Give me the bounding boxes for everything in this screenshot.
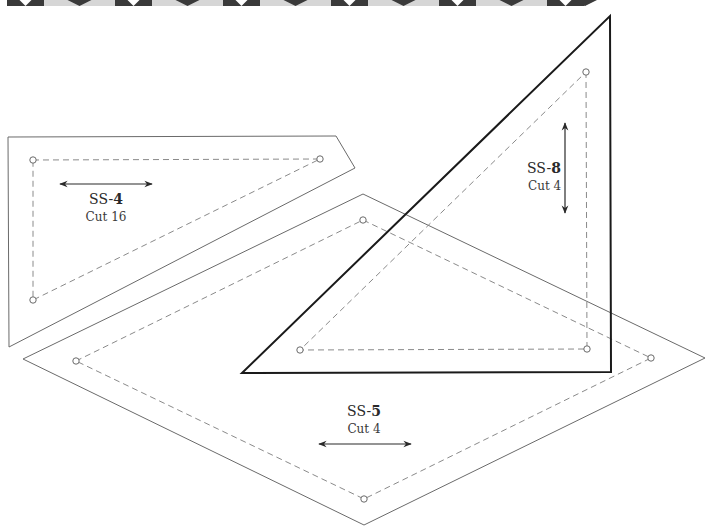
cut-count: Cut 4 bbox=[528, 179, 562, 193]
ss-8-seam-line bbox=[300, 72, 587, 350]
ss-5-seam-line bbox=[76, 220, 651, 499]
seam-point-icon bbox=[584, 346, 590, 352]
seam-point-icon bbox=[360, 217, 366, 223]
seam-point-icon bbox=[361, 496, 367, 502]
quilt-template-diagram: SS-4 Cut 16 SS-5 Cut 4 SS-8 Cut 4 bbox=[0, 0, 712, 526]
ss-4-seam-line bbox=[33, 159, 320, 300]
seam-point-icon bbox=[648, 355, 654, 361]
template-piece-ss-8: SS-8 Cut 4 bbox=[242, 16, 611, 373]
template-piece-ss-4: SS-4 Cut 16 bbox=[8, 136, 355, 347]
piece-label: SS-8 bbox=[527, 160, 561, 176]
seam-point-icon bbox=[30, 157, 36, 163]
seam-point-icon bbox=[583, 69, 589, 75]
seam-point-icon bbox=[73, 358, 79, 364]
ss-5-cut-line bbox=[23, 194, 705, 525]
ss-8-cut-line bbox=[242, 16, 611, 373]
seam-point-icon bbox=[297, 347, 303, 353]
seam-point-icon bbox=[317, 156, 323, 162]
ss-4-cut-line bbox=[8, 136, 355, 347]
cut-count: Cut 16 bbox=[86, 210, 127, 224]
piece-label: SS-5 bbox=[347, 403, 381, 419]
seam-point-icon bbox=[30, 297, 36, 303]
cut-count: Cut 4 bbox=[347, 422, 381, 436]
template-piece-ss-5: SS-5 Cut 4 bbox=[23, 194, 705, 525]
piece-label: SS-4 bbox=[89, 191, 123, 207]
decorative-border-strip bbox=[7, 0, 597, 6]
